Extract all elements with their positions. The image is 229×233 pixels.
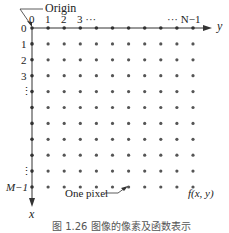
pixel-dot <box>63 58 66 61</box>
pixel-dot <box>127 122 130 125</box>
row-label-1: 1 <box>21 39 27 50</box>
pixel-dot <box>159 90 162 93</box>
pixel-dot <box>79 42 82 45</box>
pixel-dot <box>175 58 178 61</box>
pixel-dot <box>79 58 82 61</box>
pixel-dot <box>47 42 50 45</box>
pixel-dot <box>191 170 194 173</box>
pixel-dot <box>63 138 66 141</box>
pixel-dot <box>191 74 194 77</box>
pixel-dot <box>127 170 130 173</box>
pixel-dot <box>191 58 194 61</box>
pixel-dot <box>79 138 82 141</box>
pixel-dot <box>111 122 114 125</box>
pixel-dot <box>191 154 194 157</box>
pixel-dot <box>175 170 178 173</box>
pixel-dot <box>159 42 162 45</box>
pixel-dot <box>63 90 66 93</box>
pixel-dot <box>95 90 98 93</box>
pixel-dot <box>95 170 98 173</box>
pixel-dot <box>79 170 82 173</box>
pixel-dot <box>175 74 178 77</box>
pixel-dot <box>63 42 66 45</box>
column-label-0: 0 <box>29 14 35 25</box>
pixel-dot <box>79 106 82 109</box>
pixel-dot <box>111 170 114 173</box>
pixel-dot <box>175 106 178 109</box>
column-label-last: ··· N−1 <box>167 14 200 25</box>
figure-caption: 图 1.26 图像的像素及函数表示 <box>52 218 191 233</box>
pixel-dot <box>47 106 50 109</box>
pixel-dot <box>191 90 194 93</box>
pixel-dot <box>127 42 130 45</box>
pixel-dot <box>47 122 50 125</box>
pixel-dot <box>95 154 98 157</box>
pixel-dot <box>47 185 50 188</box>
pixel-dot <box>175 42 178 45</box>
pixel-dot <box>191 138 194 141</box>
x-axis-arrow-icon <box>29 198 35 207</box>
pixel-dot <box>95 42 98 45</box>
row-label-0: 0 <box>21 23 27 34</box>
pixel-dot <box>159 106 162 109</box>
pixel-dot <box>79 154 82 157</box>
pixel-dot <box>159 138 162 141</box>
pixel-dot <box>127 58 130 61</box>
pixel-dot <box>143 154 146 157</box>
column-label-1: 1 <box>45 14 51 25</box>
pixel-dot <box>63 122 66 125</box>
pixel-dot <box>47 74 50 77</box>
pixel-dot <box>127 74 130 77</box>
pixel-dot <box>143 138 146 141</box>
pixel-dot <box>191 42 194 45</box>
pixel-dot <box>159 74 162 77</box>
pixel-dot <box>111 185 114 188</box>
row-label-3: 3 <box>21 71 27 82</box>
row-label-2: 2 <box>21 55 27 66</box>
y-axis-label: y <box>217 21 222 32</box>
pixel-dot <box>47 154 50 157</box>
pixel-dot <box>143 90 146 93</box>
pixel-dot <box>79 74 82 77</box>
pixel-dot <box>175 154 178 157</box>
pixel-dot <box>95 74 98 77</box>
pixel-dot <box>159 58 162 61</box>
x-axis-label: x <box>29 209 34 220</box>
pixel-dot <box>111 58 114 61</box>
pixel-dot <box>191 106 194 109</box>
column-label-2: 2 <box>61 14 67 25</box>
pixel-dot <box>143 74 146 77</box>
pixel-dot <box>47 170 50 173</box>
pixel-dot <box>143 170 146 173</box>
pixel-dot <box>47 58 50 61</box>
pixel-dots <box>30 26 195 189</box>
function-label: f(x, y) <box>188 188 214 199</box>
pixel-dot <box>63 170 66 173</box>
pixel-dot <box>159 185 162 188</box>
pixel-dot <box>143 122 146 125</box>
row-ellipsis-2: ⋮ <box>21 166 32 177</box>
pixel-dot <box>143 106 146 109</box>
pixel-dot <box>127 154 130 157</box>
pixel-dot <box>159 122 162 125</box>
pixel-dot <box>95 58 98 61</box>
row-label-last: M−1 <box>6 182 28 193</box>
pixel-dot <box>143 185 146 188</box>
pixel-dot <box>111 106 114 109</box>
pixel-dot <box>175 90 178 93</box>
pixel-dot <box>111 74 114 77</box>
pixel-dot <box>79 122 82 125</box>
pixel-dot <box>63 154 66 157</box>
y-axis-arrow-icon <box>203 25 212 31</box>
pixel-dot <box>111 138 114 141</box>
one-pixel-label: One pixel <box>65 188 108 199</box>
pixel-dot <box>95 106 98 109</box>
pixel-dot <box>143 42 146 45</box>
row-ellipsis-1: ⋮ <box>21 86 32 97</box>
pixel-dot <box>159 170 162 173</box>
pixel-dot <box>47 138 50 141</box>
pixel-dot <box>111 154 114 157</box>
pixel-dot <box>111 42 114 45</box>
pixel-dot <box>159 154 162 157</box>
pixel-dot <box>47 90 50 93</box>
